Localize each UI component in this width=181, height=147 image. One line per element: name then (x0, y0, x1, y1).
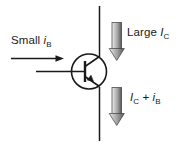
emitter-current-block-arrow-icon (109, 88, 124, 126)
transistor-current-diagram: Small iB Large IC IC + iB (0, 0, 181, 147)
emitter-current-label: IC + iB (130, 92, 161, 104)
diagram-canvas (0, 0, 181, 147)
transistor-collector-lead (85, 57, 100, 67)
collector-current-subscript: C (164, 32, 170, 41)
base-current-label: Small iB (11, 35, 52, 47)
base-current-prefix: Small (11, 34, 44, 46)
emitter-current-operator: + (139, 91, 152, 103)
emitter-current-subscript-1: C (133, 97, 139, 106)
collector-current-label: Large IC (127, 27, 169, 39)
emitter-current-subscript-2: B (155, 97, 160, 106)
collector-current-block-arrow-icon (109, 23, 124, 61)
base-current-subscript: B (46, 40, 51, 49)
base-current-arrow-icon (11, 55, 64, 62)
collector-current-prefix: Large (127, 26, 160, 38)
